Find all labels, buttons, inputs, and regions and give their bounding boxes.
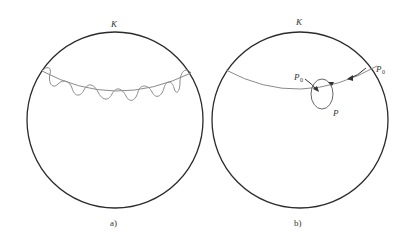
oscillating-path-a (42, 68, 191, 101)
p-label: P (332, 108, 339, 118)
sphere-k-circle-a (27, 32, 203, 208)
caption-b: b) (294, 218, 302, 228)
sphere-k-circle-b (212, 32, 388, 208)
sphere-label-a: K (110, 19, 118, 29)
p0-sub-loop: 0 (300, 77, 303, 83)
panel-a: K a) (27, 19, 203, 228)
panel-b: K P 0 P 0 P b) (212, 17, 388, 228)
caption-a: a) (110, 218, 117, 228)
p0-sub-right: 0 (382, 69, 385, 75)
p0-label-right: P (375, 64, 382, 74)
figure-canvas: K a) K P 0 P 0 P b) (0, 0, 408, 245)
sphere-label-b: K (295, 17, 303, 27)
p0-label-loop: P (293, 72, 300, 82)
